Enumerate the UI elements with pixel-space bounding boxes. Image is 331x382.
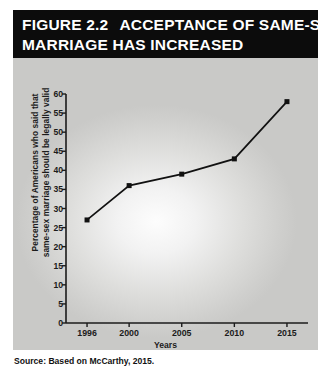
figure-container: FIGURE 2.2ACCEPTANCE OF SAME-SEX MARRIAG… <box>13 10 318 372</box>
figure-source-bar: Source: Based on McCarthy, 2015. <box>13 350 318 372</box>
x-tick-label: 2000 <box>119 328 139 338</box>
figure-title-bar: FIGURE 2.2ACCEPTANCE OF SAME-SEX MARRIAG… <box>13 10 318 58</box>
x-tick-label: 2010 <box>225 328 245 338</box>
chart-plot-area: Percentage of Americans who said that sa… <box>13 58 318 350</box>
x-tick-label: 2005 <box>172 328 192 338</box>
figure-title-line-1: FIGURE 2.2ACCEPTANCE OF SAME-SEX <box>22 15 310 35</box>
source-note: Source: Based on McCarthy, 2015. <box>14 356 154 366</box>
x-tick-label: 2015 <box>277 328 297 338</box>
figure-number: FIGURE 2.2 <box>22 15 108 35</box>
figure-title-text: ACCEPTANCE OF SAME-SEX <box>119 16 331 33</box>
x-axis-tick-labels: 19962000200520102015 <box>13 58 318 350</box>
figure-title-line-2: MARRIAGE HAS INCREASED <box>22 35 310 55</box>
x-axis-title: Years <box>13 340 318 350</box>
x-tick-label: 1996 <box>77 328 97 338</box>
